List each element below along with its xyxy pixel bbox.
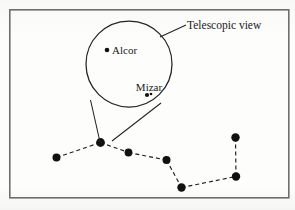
constellation-star-dots <box>53 133 241 191</box>
magnified-stars-group: Alcor Mizar <box>105 44 163 97</box>
mizar-label: Mizar <box>136 81 163 93</box>
constellation-star-phecda <box>177 183 185 191</box>
constellation-link-alioth-megrez <box>129 153 167 161</box>
telescopic-view-circle <box>86 21 172 107</box>
constellation-link-lines <box>57 138 237 188</box>
magnifier-cone-line-right <box>112 103 161 141</box>
alcor-label: Alcor <box>112 44 137 56</box>
constellation-star-alioth <box>125 149 133 157</box>
constellation-star-alkaid <box>53 154 61 162</box>
constellation-star-mizar <box>96 138 105 147</box>
mizar-companion-star-dot <box>150 93 153 96</box>
constellation-star-merak <box>232 172 240 180</box>
alcor-star-dot <box>105 48 110 53</box>
constellation-star-megrez <box>163 156 171 164</box>
telescopic-callout-group: Telescopic view <box>86 19 262 142</box>
constellation-group <box>53 133 241 191</box>
constellation-link-megrez-phecda <box>167 160 182 188</box>
constellation-link-alkaid-mizar <box>57 143 101 158</box>
telescopic-view-diagram: Telescopic view Alcor Mizar <box>0 0 295 210</box>
magnifier-cone-line-left <box>91 100 101 142</box>
constellation-star-dubhe <box>231 133 239 141</box>
mizar-star-dot <box>145 93 149 97</box>
constellation-link-mizar-alioth <box>101 143 129 153</box>
constellation-link-phecda-merak <box>182 177 237 188</box>
figure-frame-border <box>10 10 289 198</box>
telescopic-view-label: Telescopic view <box>187 19 262 32</box>
constellation-link-merak-dubhe <box>236 138 237 177</box>
telescopic-view-leader-line <box>160 25 186 37</box>
figure-page: Telescopic view Alcor Mizar <box>0 0 295 210</box>
